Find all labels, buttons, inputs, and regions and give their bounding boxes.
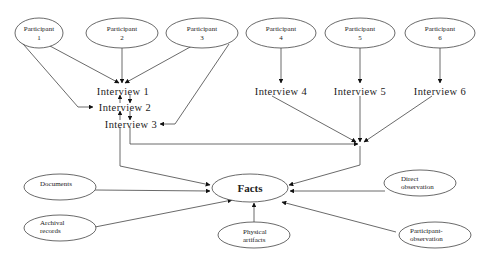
edge-p1-i1 <box>50 46 119 83</box>
participant-3-label: Participant <box>187 25 217 33</box>
participant-3-node <box>166 18 238 48</box>
participant-6-node <box>405 18 475 48</box>
physical-label-line1: Physical <box>243 228 267 236</box>
participant-4-number: 4 <box>279 34 283 42</box>
participant-1-number: 1 <box>37 34 41 42</box>
edge-i1-facts <box>120 127 210 185</box>
archival-label-line2: records <box>40 227 61 235</box>
interview-6-label: Interview 6 <box>414 86 467 97</box>
interview-5-label: Interview 5 <box>334 86 387 97</box>
direct-label-line1: Direct <box>401 175 419 183</box>
participant-4-node <box>246 18 316 48</box>
edge-p3-i3 <box>160 44 229 124</box>
participant-2-label: Participant <box>107 25 137 33</box>
interview-3-label: Interview 3 <box>105 119 158 130</box>
interview-4-label: Interview 4 <box>255 86 308 97</box>
participant-1-label: Participant <box>24 25 54 33</box>
participant-2-node <box>86 18 158 48</box>
facts-label: Facts <box>237 182 263 194</box>
documents-label: Documents <box>40 180 72 188</box>
edge-i4-merge <box>272 96 356 142</box>
participant-obs-label-line2: observation <box>410 235 443 243</box>
physical-label-line2: artifacts <box>243 236 266 244</box>
edge-i6-merge <box>364 96 432 142</box>
edge-p3-i1 <box>125 46 192 83</box>
archival-label-line1: Archival <box>40 219 65 227</box>
edge-documents-facts <box>95 190 210 191</box>
edge-participant-obs-facts <box>282 202 396 232</box>
participant-obs-label-line1: Participant- <box>410 227 443 235</box>
edge-p1-i2 <box>17 37 93 107</box>
participant-5-number: 5 <box>358 34 362 42</box>
participant-4-label: Participant <box>266 25 296 33</box>
participant-2-number: 2 <box>120 34 124 42</box>
participant-5-label: Participant <box>345 25 375 33</box>
participant-6-label: Participant <box>425 25 455 33</box>
interview-1-label: Interview 1 <box>97 86 150 97</box>
participant-6-number: 6 <box>438 34 442 42</box>
direct-label-line2: observation <box>401 183 434 191</box>
participant-3-number: 3 <box>200 34 204 42</box>
participant-5-node <box>325 18 395 48</box>
edge-i3-merge <box>130 127 358 144</box>
edge-archival-facts <box>95 200 232 227</box>
edge-merge-facts <box>289 146 360 185</box>
interview-2-label: Interview 2 <box>99 102 152 113</box>
diagram-canvas: Participant 1 Participant 2 Participant … <box>0 0 492 260</box>
participant-1-node <box>15 18 63 48</box>
